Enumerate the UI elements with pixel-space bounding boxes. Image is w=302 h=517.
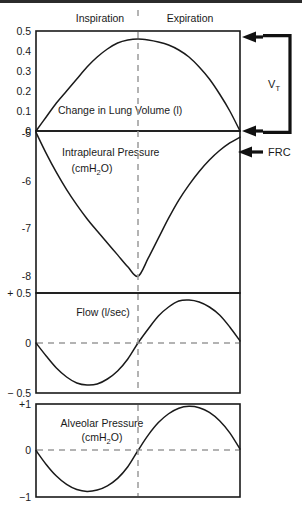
- tidal-volume-bottom-arrowhead: [242, 126, 256, 137]
- tidal-volume-top-arrowhead: [242, 32, 256, 43]
- frc-annotation: FRC: [238, 146, 291, 158]
- y-tick-label: +1: [19, 398, 31, 410]
- series-units-intrapleural-pressure: (cmH2O): [72, 162, 113, 177]
- figure-canvas: Inspiration Expiration Change in Lung Vo…: [0, 0, 302, 517]
- y-tick-label: 0.2: [16, 85, 31, 97]
- y-axis-intrapleural-pressure: -5-6-7-8: [22, 127, 31, 282]
- phase-label-inspiration: Inspiration: [76, 12, 125, 24]
- respiratory-cycle-figure: Inspiration Expiration Change in Lung Vo…: [0, 0, 302, 517]
- panel-intrapleural-pressure: Intrapleural Pressure (cmH2O) -5-6-7-8: [22, 127, 240, 293]
- series-label-alveolar-pressure: Alveolar Pressure: [61, 417, 144, 429]
- series-label-flow: Flow (l/sec): [76, 306, 130, 318]
- panel-lung-volume: Change in Lung Volume (l) 0.50.40.30.20.…: [16, 25, 240, 137]
- series-label-lung-volume: Change in Lung Volume (l): [58, 104, 182, 116]
- curve-lung-volume: [36, 39, 240, 131]
- y-tick-label: 0: [25, 444, 31, 456]
- series-label-intrapleural-pressure: Intrapleural Pressure: [62, 146, 160, 158]
- panel-flow: Flow (l/sec) + 0.50− 0.5: [7, 287, 240, 399]
- phase-label-expiration: Expiration: [167, 12, 214, 24]
- y-axis-lung-volume: 0.50.40.30.20.10: [16, 25, 31, 137]
- y-tick-label: 0: [25, 337, 31, 349]
- y-tick-label: 0.4: [16, 45, 31, 57]
- y-tick-label: -6: [22, 175, 31, 187]
- series-units-alveolar-pressure: (cmH2O): [82, 431, 123, 446]
- y-tick-label: + 0.5: [7, 287, 31, 299]
- y-tick-label: −1: [19, 491, 31, 503]
- y-tick-label: 0.1: [16, 105, 31, 117]
- y-tick-label: -8: [22, 270, 31, 282]
- frc-label: FRC: [268, 146, 291, 158]
- y-tick-label: 0.3: [16, 65, 31, 77]
- y-tick-label: -7: [22, 222, 31, 234]
- tidal-volume-label: VT: [268, 78, 280, 93]
- panel-alveolar-pressure: Alveolar Pressure (cmH2O) +10−1: [19, 398, 240, 503]
- y-tick-label: -5: [22, 127, 31, 139]
- tidal-volume-annotation: VT: [242, 32, 290, 137]
- y-axis-alveolar-pressure: +10−1: [19, 398, 31, 503]
- y-axis-flow: + 0.50− 0.5: [7, 287, 31, 399]
- y-tick-label: 0.5: [16, 25, 31, 37]
